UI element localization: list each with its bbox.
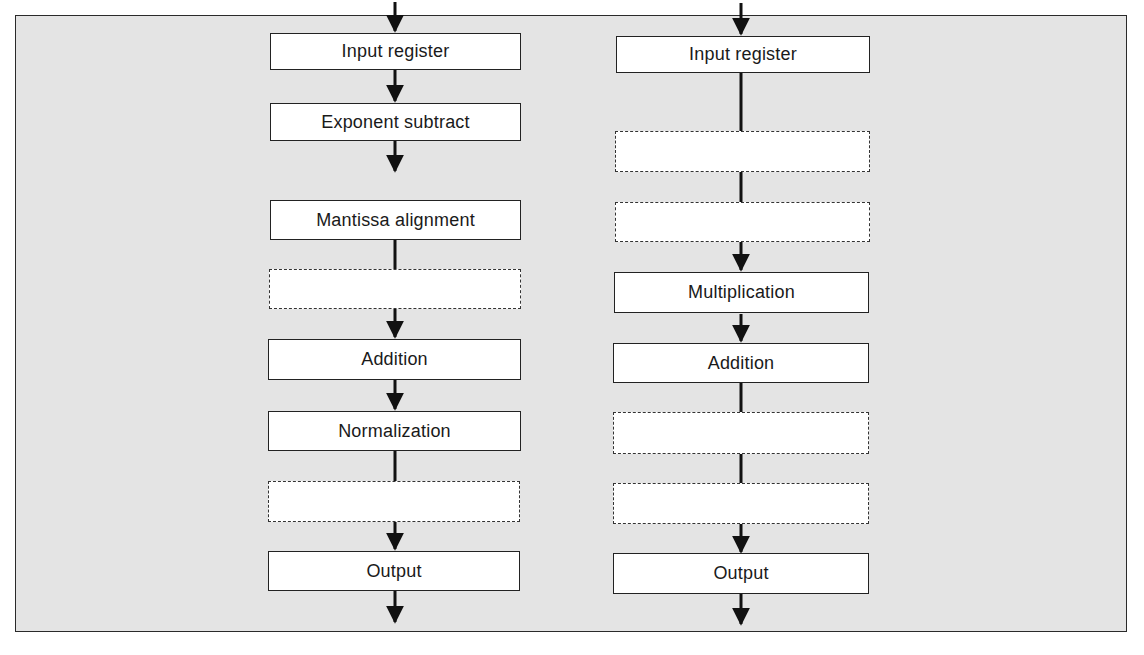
left-stage-empty-2 bbox=[268, 481, 520, 522]
diagram-stage: Input register Exponent subtract Mantiss… bbox=[0, 0, 1144, 655]
right-stage-empty-1 bbox=[615, 131, 870, 172]
left-stage-input-register: Input register bbox=[270, 33, 521, 70]
right-stage-empty-2 bbox=[615, 202, 870, 242]
left-stage-exponent-subtract: Exponent subtract bbox=[270, 103, 521, 141]
flow-arrows bbox=[0, 0, 1144, 655]
left-stage-empty-1 bbox=[269, 269, 521, 309]
right-stage-output: Output bbox=[613, 553, 869, 594]
left-stage-addition: Addition bbox=[268, 339, 521, 380]
left-stage-mantissa-alignment: Mantissa alignment bbox=[270, 200, 521, 240]
right-stage-empty-4 bbox=[613, 483, 869, 524]
left-stage-output: Output bbox=[268, 551, 520, 591]
right-stage-input-register: Input register bbox=[616, 36, 870, 73]
right-stage-multiplication: Multiplication bbox=[614, 272, 869, 313]
left-stage-normalization: Normalization bbox=[268, 411, 521, 451]
right-stage-empty-3 bbox=[613, 412, 869, 454]
right-stage-addition: Addition bbox=[613, 343, 869, 383]
